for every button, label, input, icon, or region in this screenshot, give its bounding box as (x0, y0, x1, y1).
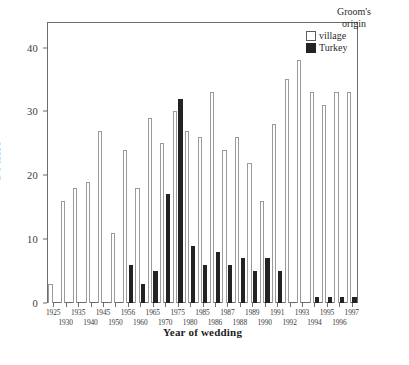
x-tick-label: 1991 (270, 308, 284, 317)
y-axis-title: Count (0, 141, 4, 184)
bar-village-1986 (210, 92, 214, 303)
bar-village-1935 (73, 188, 77, 303)
legend-swatch-village-icon (306, 31, 316, 41)
x-tick-mark (53, 303, 54, 307)
bar-village-1956 (123, 150, 127, 303)
legend-title: Groom's origin (304, 6, 404, 29)
y-tick-label: 20 (27, 170, 38, 181)
bar-village-1975 (173, 111, 177, 303)
legend-item-village[interactable]: village (304, 31, 404, 41)
chart-root: Count 010203040 192519301935194019451950… (0, 0, 409, 365)
bar-village-1997 (347, 92, 351, 303)
bar-village-1940 (86, 182, 90, 303)
bar-series-layer (47, 22, 358, 303)
x-tick-label: 1965 (146, 308, 160, 317)
bar-village-1925 (48, 284, 52, 303)
x-tick-label: 1985 (195, 308, 209, 317)
x-tick-label: 1956 (121, 308, 135, 317)
x-tick-mark (265, 303, 266, 307)
x-tick-mark (203, 303, 204, 307)
bar-turkey-1960 (141, 284, 145, 303)
bar-village-1945 (98, 131, 102, 303)
y-axis: Count 010203040 (0, 22, 47, 303)
y-tick-label: 10 (27, 234, 38, 245)
legend-title-line-2: origin (304, 18, 404, 30)
x-tick-mark (190, 303, 191, 307)
bar-turkey-1980 (191, 246, 195, 303)
x-tick-mark (302, 303, 303, 307)
x-tick-label: 1935 (71, 308, 85, 317)
y-tick-label: 30 (27, 106, 38, 117)
x-tick-label: 1989 (245, 308, 259, 317)
bar-village-1950 (111, 233, 115, 303)
legend-swatch-turkey-icon (306, 43, 316, 53)
x-tick-mark (103, 303, 104, 307)
bar-turkey-1970 (166, 194, 170, 303)
legend-label-turkey: Turkey (319, 43, 348, 53)
bar-turkey-1986 (216, 252, 220, 303)
bar-village-1991 (272, 124, 276, 303)
bar-village-1992 (285, 79, 289, 303)
legend-title-line-1: Groom's (304, 6, 404, 18)
x-tick-mark (290, 303, 291, 307)
bar-village-1995 (322, 105, 326, 303)
bar-turkey-1965 (153, 271, 157, 303)
bar-village-1930 (61, 201, 65, 303)
bar-village-1980 (185, 131, 189, 303)
x-tick-mark (115, 303, 116, 307)
x-tick-mark (240, 303, 241, 307)
x-tick-mark (91, 303, 92, 307)
x-tick-mark (352, 303, 353, 307)
bar-village-1985 (198, 137, 202, 303)
x-tick-label: 1997 (345, 308, 359, 317)
bar-turkey-1985 (203, 265, 207, 303)
x-tick-mark (78, 303, 79, 307)
bar-village-1993 (297, 60, 301, 303)
bar-village-1994 (310, 92, 314, 303)
bar-village-1988 (235, 137, 239, 303)
bar-village-1960 (135, 188, 139, 303)
y-tick-label: 40 (27, 42, 38, 53)
x-tick-mark (215, 303, 216, 307)
x-tick-mark (327, 303, 328, 307)
x-tick-label: 1945 (96, 308, 110, 317)
x-tick-mark (227, 303, 228, 307)
bar-village-1990 (260, 201, 264, 303)
x-axis-title: Year of wedding (47, 326, 358, 338)
x-tick-label: 1995 (320, 308, 334, 317)
x-tick-mark (277, 303, 278, 307)
y-tick-label: 0 (33, 298, 38, 309)
legend: Groom's origin village Turkey (304, 6, 404, 53)
bar-turkey-1956 (129, 265, 133, 303)
x-tick-mark (128, 303, 129, 307)
bar-turkey-1989 (253, 271, 257, 303)
bar-village-1970 (160, 143, 164, 303)
bar-turkey-1975 (178, 99, 182, 303)
bar-turkey-1987 (228, 265, 232, 303)
x-tick-label: 1987 (220, 308, 234, 317)
x-tick-mark (252, 303, 253, 307)
x-tick-mark (140, 303, 141, 307)
x-tick-mark (153, 303, 154, 307)
x-tick-label: 1925 (46, 308, 60, 317)
bar-turkey-1991 (278, 271, 282, 303)
x-tick-mark (339, 303, 340, 307)
bar-village-1987 (222, 150, 226, 303)
x-tick-mark (178, 303, 179, 307)
bar-village-1996 (334, 92, 338, 303)
x-tick-mark (314, 303, 315, 307)
bar-village-1965 (148, 118, 152, 303)
bar-turkey-1990 (265, 258, 269, 303)
bar-village-1989 (247, 163, 251, 304)
x-tick-mark (165, 303, 166, 307)
legend-item-turkey[interactable]: Turkey (304, 43, 404, 53)
x-tick-label: 1975 (170, 308, 184, 317)
x-tick-label: 1993 (295, 308, 309, 317)
x-tick-mark (66, 303, 67, 307)
bar-turkey-1988 (241, 258, 245, 303)
legend-label-village: village (319, 31, 346, 41)
